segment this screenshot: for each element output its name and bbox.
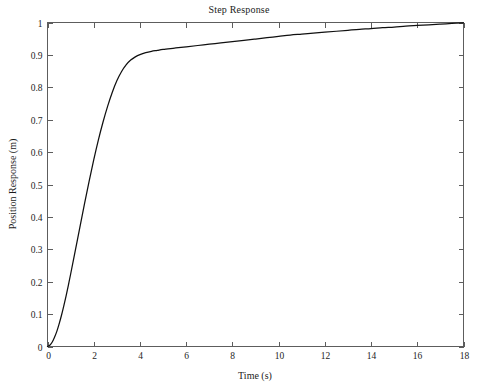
y-tick-label-10: 1 xyxy=(38,19,43,29)
y-axis-tick-labels: 00.10.20.30.40.50.60.70.80.91 xyxy=(31,19,43,353)
y-tick-label-2: 0.2 xyxy=(31,278,43,288)
y-axis-title: Position Response (m) xyxy=(7,139,19,230)
y-tick-label-0: 0 xyxy=(38,343,43,353)
x-tick-label-9: 18 xyxy=(460,351,470,361)
data-series-position-response xyxy=(48,23,464,347)
x-axis-tick-labels: 024681012141618 xyxy=(46,351,469,361)
step-response-chart: 024681012141618 00.10.20.30.40.50.60.70.… xyxy=(0,0,478,386)
y-tick-label-5: 0.5 xyxy=(31,181,43,191)
y-axis-ticks xyxy=(48,24,464,348)
y-tick-label-9: 0.9 xyxy=(31,51,43,61)
plot-frame-border xyxy=(48,23,464,347)
y-tick-label-6: 0.6 xyxy=(31,148,43,158)
x-tick-label-1: 2 xyxy=(92,351,97,361)
y-tick-label-4: 0.4 xyxy=(31,213,43,223)
x-tick-label-5: 10 xyxy=(275,351,285,361)
x-tick-label-2: 4 xyxy=(138,351,143,361)
x-tick-label-7: 14 xyxy=(367,351,377,361)
x-tick-label-6: 12 xyxy=(321,351,331,361)
x-tick-label-0: 0 xyxy=(46,351,51,361)
x-axis-ticks xyxy=(49,23,465,347)
plot-frame xyxy=(48,23,464,347)
y-tick-label-3: 0.3 xyxy=(31,245,43,255)
x-tick-label-4: 8 xyxy=(230,351,235,361)
x-tick-label-8: 16 xyxy=(413,351,423,361)
x-axis-title: Time (s) xyxy=(238,370,272,382)
y-tick-label-8: 0.8 xyxy=(31,83,43,93)
step-response-figure: Step Response 024681012141618 00.10.20.3… xyxy=(0,0,478,386)
x-tick-label-3: 6 xyxy=(184,351,189,361)
y-tick-label-7: 0.7 xyxy=(31,116,43,126)
y-tick-label-1: 0.1 xyxy=(31,310,43,320)
